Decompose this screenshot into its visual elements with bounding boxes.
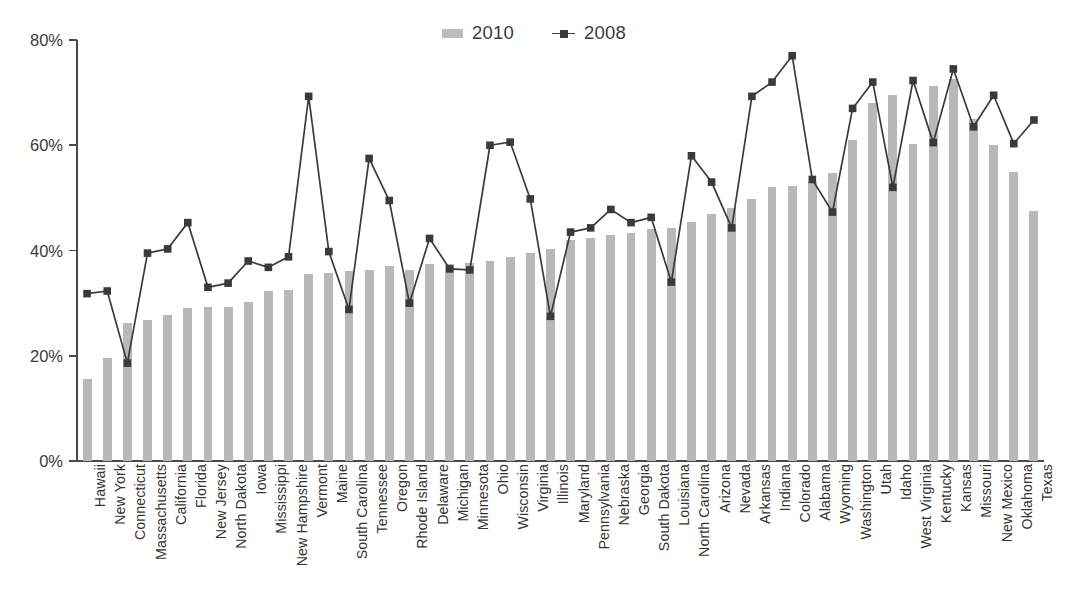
line-marker: Georgia: 45.3%: [627, 219, 635, 227]
line-marker: Maryland: 43.5%: [567, 228, 575, 236]
x-axis-tick-label: Missouri: [978, 464, 994, 518]
line-marker: Arizona: 53%: [708, 178, 716, 186]
x-axis-tick-label: Nevada: [737, 464, 753, 514]
line-marker: New Hampshire: 38.8%: [285, 253, 293, 261]
y-axis-tick: [69, 144, 77, 146]
x-axis-tick-label: Connecticut: [132, 464, 148, 540]
line-marker-swatch-icon: [552, 28, 575, 39]
chart-container: 2010 2008 0%20%40%60%80% Hawaii: 31.8%Ne…: [0, 0, 1068, 608]
bar-swatch-icon: [442, 29, 463, 38]
x-axis-tick-label: Michigan: [455, 464, 471, 522]
line-marker: Utah: 72%: [869, 78, 877, 86]
x-axis-tick-label: Nebraska: [616, 464, 632, 526]
x-axis-tick-label: Washington: [858, 464, 874, 539]
x-axis-tick-label: New York: [112, 464, 128, 525]
x-axis-tick-label: West Virginia: [918, 464, 934, 548]
x-axis-tick-label: South Carolina: [354, 464, 370, 559]
x-axis-labels: HawaiiNew YorkConnecticutMassachusettsCa…: [77, 464, 1044, 604]
y-axis-tick: [69, 460, 77, 462]
line-marker: North Dakota: 33.8%: [224, 279, 232, 287]
line-marker: Hawaii: 31.8%: [83, 290, 91, 298]
x-axis-tick-label: Vermont: [314, 464, 330, 518]
line-marker: California: 40.3%: [164, 245, 172, 253]
y-axis-tick: [69, 355, 77, 357]
line-marker: New Jersey: 33%: [204, 284, 212, 292]
line-marker: Washington: 67%: [849, 105, 857, 113]
y-axis-tick: [69, 250, 77, 252]
x-axis-tick-label: Massachusetts: [153, 464, 169, 560]
x-axis-tick-label: Delaware: [435, 464, 451, 525]
x-axis-tick-label: Rhode Island: [414, 464, 430, 549]
line-marker: New Mexico: 69.5%: [990, 91, 998, 99]
line-marker: Idaho: 52%: [889, 184, 897, 192]
x-axis-tick-label: South Dakota: [656, 464, 672, 551]
x-axis-tick-label: Arizona: [717, 464, 733, 513]
line-marker: Massachusetts: 39.5%: [144, 249, 152, 257]
x-axis-tick-label: Arkansas: [757, 464, 773, 524]
x-axis-tick-label: New Jersey: [213, 464, 229, 539]
x-axis-tick-label: Georgia: [636, 464, 652, 515]
x-axis-tick-label: Ohio: [495, 464, 511, 494]
line-marker: Missouri: 63.5%: [970, 123, 978, 131]
x-axis-tick-label: Alabama: [817, 464, 833, 521]
line-marker: Connecticut: 18.6%: [124, 359, 132, 367]
x-axis-tick-label: Idaho: [898, 464, 914, 500]
x-axis-tick-label: Hawaii: [92, 464, 108, 507]
line-marker: Ohio: 60%: [486, 141, 494, 149]
y-axis-tick-label: 0%: [39, 452, 63, 471]
line-marker: Nebraska: 47.8%: [607, 206, 615, 214]
x-axis-tick-label: Pennsylvania: [596, 464, 612, 550]
line-marker: Iowa: 38%: [244, 257, 252, 265]
line-marker: Mississippi: 36.8%: [265, 264, 273, 272]
x-axis-tick-label: California: [173, 464, 189, 525]
line-path: [87, 56, 1034, 363]
line-marker: North Carolina: 58%: [688, 152, 696, 160]
x-axis-tick-label: Oregon: [394, 464, 410, 512]
line-marker: South Dakota: 46.3%: [647, 214, 655, 222]
x-axis-tick-label: Florida: [193, 464, 209, 508]
line-marker: Delaware: 42.3%: [426, 235, 434, 243]
y-axis-tick-label: 60%: [30, 136, 63, 155]
line-marker: Texas: 64.8%: [1030, 116, 1038, 124]
x-axis-tick-label: North Carolina: [696, 464, 712, 557]
line-marker: Kansas: 74.5%: [950, 65, 958, 73]
y-axis-tick-label: 80%: [30, 31, 63, 50]
line-series-2008: Hawaii: 31.8%New York: 32.3%Connecticut:…: [77, 40, 1044, 461]
line-marker: South Carolina: 28.8%: [345, 306, 353, 314]
line-marker: Maine: 39.8%: [325, 248, 333, 256]
line-marker: Vermont: 69.3%: [305, 93, 313, 101]
x-axis-tick-label: Utah: [878, 464, 894, 494]
line-marker: Rhode Island: 30%: [406, 299, 414, 307]
x-axis-tick-label: Indiana: [777, 464, 793, 511]
x-axis-tick-label: Maryland: [576, 464, 592, 523]
x-axis-tick-label: Wisconsin: [515, 464, 531, 530]
x-axis-tick-label: Tennessee: [374, 464, 390, 534]
line-marker: Indiana: 72%: [768, 78, 776, 86]
x-axis-tick-label: Wyoming: [837, 464, 853, 524]
line-marker: Kentucky: 60.5%: [929, 139, 937, 147]
x-axis-tick-label: Louisiana: [676, 464, 692, 526]
x-axis-tick-label: Kansas: [958, 464, 974, 512]
y-axis-tick-label: 40%: [30, 241, 63, 260]
line-marker: Arkansas: 69.3%: [748, 93, 756, 101]
x-axis-tick-label: Maine: [334, 464, 350, 503]
x-axis-tick-label: Illinois: [555, 464, 571, 504]
line-marker: Virginia: 49.8%: [526, 195, 534, 203]
x-axis-tick-label: Minnesota: [475, 464, 491, 530]
line-marker: Florida: 45.3%: [184, 219, 192, 227]
y-axis-tick-label: 20%: [30, 346, 63, 365]
line-marker: Alabama: 53.5%: [809, 176, 817, 184]
line-marker: Pennsylvania: 44.3%: [587, 224, 595, 232]
plot-area: 0%20%40%60%80% Hawaii: 31.8%New York: 32…: [77, 40, 1044, 461]
x-axis-tick-label: Iowa: [253, 464, 269, 494]
line-marker: New York: 32.3%: [103, 287, 111, 295]
x-axis-tick-label: Texas: [1039, 464, 1055, 502]
line-marker: West Virginia: 72.3%: [909, 77, 917, 85]
x-axis-tick-label: New Mexico: [999, 464, 1015, 542]
x-axis-tick-label: North Dakota: [233, 464, 249, 549]
x-axis-tick-label: Colorado: [797, 464, 813, 522]
x-axis-tick-label: Virginia: [535, 464, 551, 512]
line-marker: Nevada: 44.3%: [728, 224, 736, 232]
line-marker: Michigan: 36.5%: [446, 265, 454, 273]
line-marker: Wyoming: 47.3%: [829, 208, 837, 216]
